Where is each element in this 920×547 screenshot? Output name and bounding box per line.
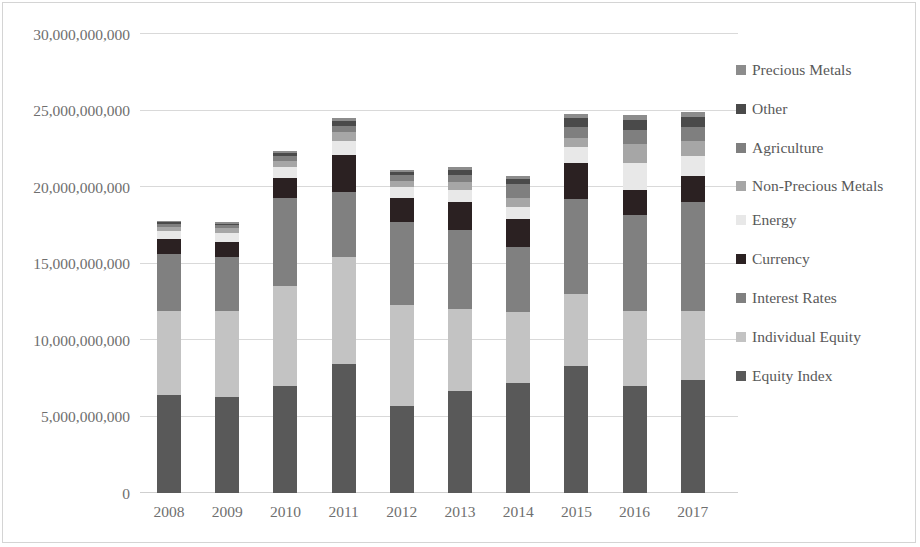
legend-item[interactable]: Individual Equity	[736, 327, 908, 347]
legend: Precious MetalsOtherAgricultureNon-Preci…	[736, 60, 908, 404]
bar-segment	[273, 167, 297, 178]
bar-segment	[681, 380, 705, 493]
bar-segment	[332, 192, 356, 258]
bar-segment	[623, 386, 647, 493]
x-axis-tick-label: 2009	[212, 504, 243, 520]
bar-segment	[506, 198, 530, 207]
bar-segment	[332, 155, 356, 192]
bar-segment	[273, 286, 297, 385]
bar-segment	[157, 254, 181, 311]
bar-segment	[681, 202, 705, 311]
bar-segment	[390, 187, 414, 198]
legend-item-label: Interest Rates	[752, 288, 837, 308]
x-axis-tick-label: 2013	[445, 504, 476, 520]
legend-swatch-icon	[736, 143, 746, 153]
bar-segment	[506, 184, 530, 198]
legend-item-label: Agriculture	[752, 138, 823, 158]
bar-segment	[506, 247, 530, 313]
bar-segment	[157, 311, 181, 395]
bar-segment	[332, 257, 356, 364]
bar-segment	[564, 199, 588, 294]
bar-segment	[681, 311, 705, 380]
x-axis-tick-label: 2014	[503, 504, 534, 520]
bar-segment	[273, 178, 297, 198]
bar-segment	[506, 383, 530, 493]
stacked-bar-chart: 05,000,000,00010,000,000,00015,000,000,0…	[0, 0, 920, 547]
bar-2013	[448, 167, 472, 493]
bar-segment	[623, 190, 647, 214]
legend-item[interactable]: Energy	[736, 210, 908, 230]
legend-item[interactable]: Agriculture	[736, 138, 908, 158]
bar-2009	[215, 222, 239, 493]
bar-segment	[390, 406, 414, 493]
bar-segment	[564, 294, 588, 366]
bar-segment	[506, 312, 530, 382]
bar-segment	[332, 141, 356, 155]
y-axis-tick-label: 25,000,000,000	[33, 103, 130, 119]
bar-segment	[390, 305, 414, 406]
legend-item[interactable]: Currency	[736, 249, 908, 269]
bar-segment	[623, 120, 647, 131]
bar-segment	[215, 233, 239, 242]
bar-segment	[564, 127, 588, 138]
bar-segment	[390, 198, 414, 222]
legend-item-label: Precious Metals	[752, 60, 851, 80]
y-axis-tick-label: 20,000,000,000	[33, 179, 130, 195]
bar-segment	[506, 207, 530, 219]
gridline	[140, 110, 738, 111]
bar-segment	[564, 138, 588, 147]
bar-segment	[681, 117, 705, 128]
gridline	[140, 33, 738, 34]
bar-segment	[157, 239, 181, 254]
legend-item[interactable]: Interest Rates	[736, 288, 908, 308]
legend-swatch-icon	[736, 104, 746, 114]
legend-item-label: Other	[752, 99, 787, 119]
bar-segment	[448, 202, 472, 230]
x-axis-tick-label: 2011	[328, 504, 358, 520]
y-axis-tick-label: 5,000,000,000	[41, 409, 130, 425]
bar-segment	[448, 182, 472, 190]
bar-2010	[273, 151, 297, 493]
plot-area: 05,000,000,00010,000,000,00015,000,000,0…	[140, 34, 738, 493]
bar-segment	[332, 364, 356, 493]
y-axis-tick-label: 10,000,000,000	[33, 332, 130, 348]
legend-swatch-icon	[736, 65, 746, 75]
bar-segment	[215, 397, 239, 493]
legend-swatch-icon	[736, 371, 746, 381]
bar-segment	[623, 130, 647, 144]
legend-item-label: Individual Equity	[752, 327, 861, 347]
bar-2014	[506, 176, 530, 493]
bar-segment	[564, 366, 588, 493]
x-axis-tick-label: 2017	[677, 504, 708, 520]
legend-swatch-icon	[736, 254, 746, 264]
y-axis-tick-label: 0	[122, 485, 130, 501]
legend-item-label: Energy	[752, 210, 796, 230]
bar-segment	[681, 156, 705, 176]
x-axis-tick-label: 2015	[561, 504, 592, 520]
legend-item[interactable]: Non-Precious Metals	[736, 176, 908, 196]
bar-segment	[215, 242, 239, 257]
bar-segment	[157, 231, 181, 239]
x-axis-tick-label: 2008	[154, 504, 185, 520]
legend-item[interactable]: Equity Index	[736, 366, 908, 386]
legend-swatch-icon	[736, 332, 746, 342]
bar-segment	[623, 163, 647, 191]
bar-segment	[448, 175, 472, 183]
legend-item-label: Currency	[752, 249, 810, 269]
legend-item-label: Equity Index	[752, 366, 833, 386]
bar-segment	[681, 141, 705, 156]
legend-item-label: Non-Precious Metals	[752, 176, 883, 196]
bar-segment	[564, 147, 588, 162]
x-axis-tick-label: 2010	[270, 504, 301, 520]
legend-item[interactable]: Other	[736, 99, 908, 119]
bar-2012	[390, 170, 414, 494]
bar-segment	[623, 311, 647, 386]
bar-2016	[623, 115, 647, 493]
bar-segment	[448, 391, 472, 494]
bar-segment	[157, 395, 181, 493]
bar-segment	[623, 144, 647, 162]
bar-2011	[332, 118, 356, 493]
legend-swatch-icon	[736, 215, 746, 225]
legend-swatch-icon	[736, 181, 746, 191]
legend-item[interactable]: Precious Metals	[736, 60, 908, 80]
